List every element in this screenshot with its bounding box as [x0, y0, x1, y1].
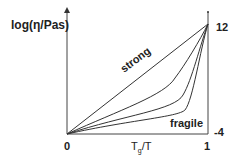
y-tick-top: 12: [216, 21, 228, 33]
y-axis-label: log(η/Pas): [11, 18, 69, 32]
x-axis-label: Tg/T: [131, 140, 151, 154]
x-tick-right: 1: [204, 140, 210, 152]
y-tick-bottom: -4: [214, 126, 224, 138]
x-tick-left: 0: [64, 140, 70, 152]
x-label-tail: /T: [142, 140, 152, 152]
fragile-label: fragile: [170, 117, 203, 129]
x-label-T: T: [131, 140, 138, 152]
